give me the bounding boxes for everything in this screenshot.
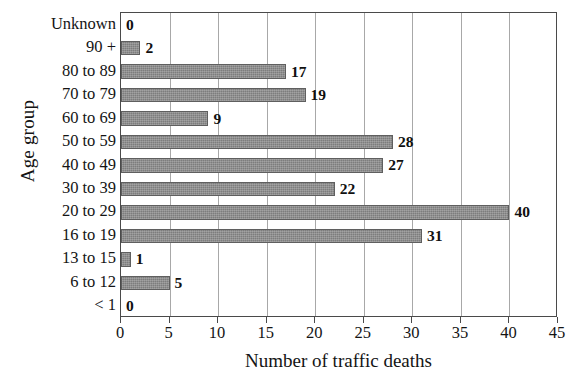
bar-value-label: 22 <box>340 180 356 198</box>
bar-value-label: 2 <box>145 39 153 57</box>
bar-row: 17 <box>121 64 556 79</box>
bar-row: 22 <box>121 182 556 197</box>
bar[interactable] <box>121 64 286 79</box>
x-axis-tick-label: 25 <box>355 323 372 343</box>
y-axis-tick-label: 13 to 15 <box>28 250 116 267</box>
x-axis-tick-label: 20 <box>306 323 323 343</box>
bar[interactable] <box>121 111 208 126</box>
bar-value-label: 17 <box>291 63 307 81</box>
y-axis-tick-label: 60 to 69 <box>28 110 116 127</box>
bar[interactable] <box>121 41 140 56</box>
bar-value-label: 9 <box>213 110 221 128</box>
bar-value-label: 27 <box>388 156 404 174</box>
bar-row: 1 <box>121 252 556 267</box>
bar-value-label: 1 <box>136 250 144 268</box>
bar-row: 27 <box>121 158 556 173</box>
x-axis-tick-labels: 051015202530354045 <box>120 323 557 347</box>
bar-row: 19 <box>121 88 556 103</box>
bar-row: 0 <box>121 17 556 32</box>
bar-value-label: 19 <box>311 86 327 104</box>
x-axis-tick-label: 0 <box>116 323 124 343</box>
bar[interactable] <box>121 88 306 103</box>
y-axis-tick-label: 50 to 59 <box>28 133 116 150</box>
bar[interactable] <box>121 135 393 150</box>
bar-row: 2 <box>121 41 556 56</box>
x-axis-tick-label: 45 <box>549 323 566 343</box>
bar-row: 28 <box>121 135 556 150</box>
y-axis-tick-label: 80 to 89 <box>28 63 116 80</box>
y-axis-tick-labels: Unknown90 +80 to 8970 to 7960 to 6950 to… <box>28 12 116 317</box>
bar-row: 5 <box>121 276 556 291</box>
bar[interactable] <box>121 229 422 244</box>
y-axis-tick-label: Unknown <box>28 16 116 33</box>
bar-value-label: 0 <box>126 297 134 315</box>
y-axis-tick-label: 30 to 39 <box>28 180 116 197</box>
bar-value-label: 5 <box>175 274 183 292</box>
bar-value-label: 40 <box>514 203 530 221</box>
x-axis-tick-label: 35 <box>452 323 469 343</box>
bar-value-label: 28 <box>398 133 414 151</box>
x-axis-tick-label: 40 <box>500 323 517 343</box>
gridline <box>558 13 559 316</box>
plot-area: 02171992827224031150 <box>120 12 557 317</box>
bar[interactable] <box>121 205 509 220</box>
x-axis-tick-label: 30 <box>403 323 420 343</box>
y-axis-tick-label: 40 to 49 <box>28 157 116 174</box>
y-axis-tick-label: 90 + <box>28 39 116 56</box>
x-axis-tick-label: 5 <box>164 323 172 343</box>
y-axis-tick-label: 6 to 12 <box>28 274 116 291</box>
bar[interactable] <box>121 158 383 173</box>
y-axis-tick-label: < 1 <box>28 297 116 314</box>
bar-row: 40 <box>121 205 556 220</box>
bar-value-label: 0 <box>126 16 134 34</box>
x-axis-tick-label: 15 <box>257 323 274 343</box>
x-axis-title: Number of traffic deaths <box>120 350 557 372</box>
bar-chart: Age group Unknown90 +80 to 8970 to 7960 … <box>0 0 572 381</box>
y-axis-tick-label: 16 to 19 <box>28 227 116 244</box>
bar[interactable] <box>121 182 335 197</box>
bar-row: 31 <box>121 229 556 244</box>
y-axis-tick-label: 20 to 29 <box>28 203 116 220</box>
bar-value-label: 31 <box>427 227 443 245</box>
bar[interactable] <box>121 276 170 291</box>
bar-row: 9 <box>121 111 556 126</box>
bar-row: 0 <box>121 299 556 314</box>
bars-layer: 02171992827224031150 <box>121 13 556 316</box>
x-axis-tick-label: 10 <box>209 323 226 343</box>
y-axis-tick-label: 70 to 79 <box>28 86 116 103</box>
bar[interactable] <box>121 252 131 267</box>
